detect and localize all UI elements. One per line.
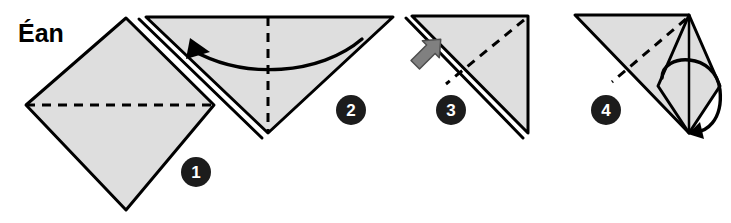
- step-badge-label-4: 4: [601, 101, 611, 120]
- step-badge-1: 1: [181, 157, 211, 187]
- step-badge-label-2: 2: [346, 101, 355, 120]
- step-badge-2: 2: [336, 95, 366, 125]
- step-badge-label-3: 3: [446, 101, 455, 120]
- origami-diagram: Éan 1 2: [0, 0, 731, 223]
- model-title: Éan: [18, 19, 64, 47]
- step-badge-3: 3: [436, 95, 466, 125]
- origami-diagram-canvas: Éan 1 2: [0, 0, 731, 223]
- step-badge-label-1: 1: [191, 163, 200, 182]
- step-badge-4: 4: [591, 95, 621, 125]
